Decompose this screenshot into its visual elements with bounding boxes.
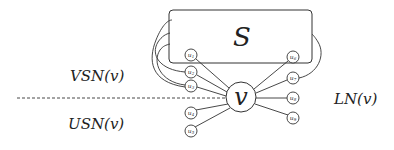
node-u7: u7 (287, 72, 299, 84)
node-u9: u9 (287, 112, 299, 124)
usn-label: USN(v) (68, 115, 124, 133)
node-u2: u2 (185, 66, 197, 78)
edge-u3-to-s-inner (157, 44, 185, 85)
edge-u7-to-s (299, 34, 321, 78)
node-u4: u4 (185, 107, 197, 119)
node-u3: u3 (185, 80, 197, 92)
vsn-label: VSN(v) (70, 67, 125, 85)
center-node-label: v (234, 83, 248, 111)
node-u6: u6 (287, 51, 299, 63)
ln-label: LN(v) (333, 90, 377, 108)
edge-u2-to-s (155, 33, 185, 72)
neighborhood-diagram: S v u1 u2 u3 u4 (0, 0, 394, 150)
set-s-label: S (233, 22, 251, 52)
node-u8: u8 (287, 92, 299, 104)
node-u5: u5 (185, 125, 197, 137)
node-u1: u1 (185, 49, 197, 61)
